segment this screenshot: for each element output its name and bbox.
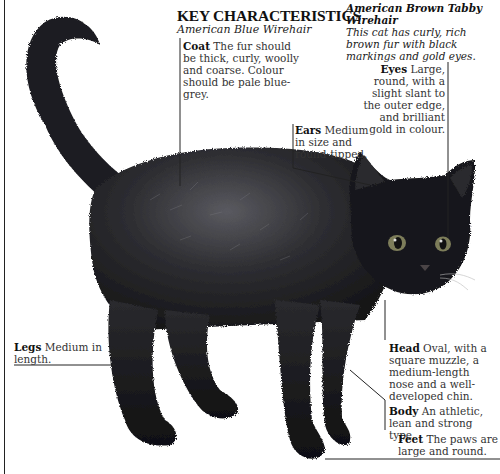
feet-term: Feet xyxy=(398,433,423,445)
head-label: Head Oval, with a square muzzle, a mediu… xyxy=(389,342,497,402)
back-right-leg xyxy=(165,310,238,418)
ears-term: Ears xyxy=(295,124,321,136)
front-right-leg xyxy=(320,300,360,445)
legs-label: Legs Medium in length. xyxy=(14,341,109,365)
front-left-leg xyxy=(275,300,325,459)
feet-label: Feet The paws are large and round. xyxy=(398,433,500,457)
variety-name: American Brown Tabby Wirehair xyxy=(346,2,496,26)
variety-note: American Brown Tabby Wirehair This cat h… xyxy=(346,2,496,62)
legs-term: Legs xyxy=(14,341,41,353)
coat-label: Coat The fur should be thick, curly, woo… xyxy=(183,40,303,100)
eyes-term: Eyes xyxy=(380,63,407,75)
body-leader xyxy=(350,370,385,430)
body-term: Body xyxy=(389,405,418,417)
head-term: Head xyxy=(389,342,420,354)
coat-term: Coat xyxy=(183,40,210,52)
variety-description: This cat has curly, rich brown fur with … xyxy=(346,26,476,62)
body xyxy=(89,148,395,330)
breed-subtitle: American Blue Wirehair xyxy=(177,23,311,36)
ears-label: Ears Medium in size and round-tipped. xyxy=(295,124,380,160)
